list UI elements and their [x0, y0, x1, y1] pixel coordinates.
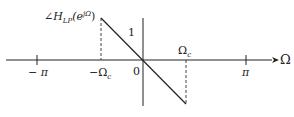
x-axis-label: Ω — [280, 52, 291, 67]
tick-label-pi: π — [241, 66, 250, 79]
phase-title: ∠HLP(ejΩ) — [44, 10, 95, 25]
axis-arrow-icon — [272, 57, 279, 63]
tick-label-neg-pi: − π — [28, 66, 49, 79]
y-marker-one: 1 — [128, 26, 135, 39]
tick-label-omega-c: Ωc — [178, 44, 191, 59]
tick-label-neg-omega-c: −Ωc — [89, 66, 111, 81]
phase-response-diagram: ∠HLP(ejΩ) 1 Ω − π −Ωc 0 Ωc π — [0, 0, 294, 117]
tick-label-origin: 0 — [133, 65, 140, 78]
